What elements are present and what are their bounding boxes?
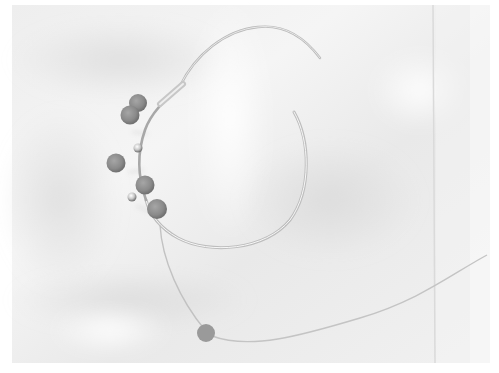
photo-canvas (0, 0, 499, 373)
fabric-background (0, 0, 495, 363)
silver-bead (134, 144, 143, 153)
silver-bead (128, 193, 137, 202)
bead (121, 106, 140, 125)
end-bead (197, 324, 215, 342)
bead (107, 154, 126, 173)
bead (147, 199, 167, 219)
photo (0, 0, 499, 373)
bead (136, 176, 155, 195)
